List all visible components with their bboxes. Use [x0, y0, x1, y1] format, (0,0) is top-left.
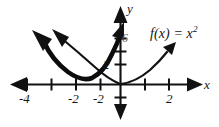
x-tick-label-2: -2 — [93, 92, 103, 105]
y-tick-label-6: 6 — [122, 32, 128, 44]
parabola-thin-right-branch — [121, 52, 168, 84]
parabola-thin-left-arrow — [52, 29, 69, 47]
y-axis — [114, 6, 128, 120]
x-tick-label-1: -2 — [68, 92, 78, 105]
function-exponent: 2 — [193, 24, 198, 34]
y-axis-arrow-bottom — [114, 104, 127, 120]
graph-figure: -4 -2 -2 2 6 2 y x f(x) = x2 — [0, 0, 219, 127]
x-tick-label-0: -4 — [19, 92, 29, 105]
function-equation-text: f(x) = x — [150, 26, 193, 41]
function-equation-label: f(x) = x2 — [150, 25, 198, 41]
x-tick-label-3: 2 — [166, 92, 172, 105]
x-axis-label: x — [204, 78, 210, 91]
y-axis-label: y — [127, 2, 133, 15]
x-axis-arrow-left — [10, 77, 27, 92]
x-axis-arrow-right — [187, 78, 203, 92]
y-tick-label-2: 2 — [103, 58, 109, 71]
parabola-thick-series — [32, 22, 124, 79]
x-axis — [10, 77, 203, 92]
y-axis-arrow-top — [114, 6, 128, 23]
coordinate-plot — [0, 0, 219, 127]
